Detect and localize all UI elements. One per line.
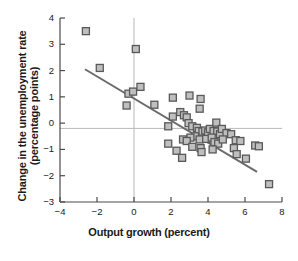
y-tick-label: 4	[36, 12, 54, 23]
y-tick-label: 3	[36, 38, 54, 49]
y-tick-label: −1	[36, 143, 54, 154]
x-tick-label: 8	[270, 206, 294, 217]
y-tick-label: −2	[36, 170, 54, 181]
y-tick-label: 0	[36, 117, 54, 128]
reference-lines-group	[60, 18, 282, 202]
data-point-marker	[186, 92, 193, 99]
y-tick-label: 1	[36, 91, 54, 102]
x-tick-label: −4	[48, 206, 72, 217]
data-point-marker	[266, 181, 273, 188]
x-tick-label: −2	[85, 206, 109, 217]
data-point-marker	[165, 140, 172, 147]
data-point-marker	[189, 143, 196, 150]
y-tick-label: 2	[36, 65, 54, 76]
x-tick-label: 4	[196, 206, 220, 217]
data-point-marker	[196, 105, 203, 112]
x-tick-label: 6	[233, 206, 257, 217]
x-tick-label: 0	[122, 206, 146, 217]
data-point-marker	[96, 64, 103, 71]
x-tick-label: 2	[159, 206, 183, 217]
data-point-marker	[219, 136, 226, 143]
data-point-marker	[179, 154, 186, 161]
data-point-marker	[255, 143, 262, 150]
axes-group	[60, 18, 282, 202]
data-point-marker	[173, 147, 180, 154]
data-point-marker	[169, 113, 176, 120]
data-point-marker	[151, 101, 158, 108]
data-point-marker	[165, 123, 172, 130]
data-point-marker	[169, 94, 176, 101]
data-point-marker	[237, 138, 244, 145]
data-point-marker	[198, 149, 205, 156]
data-point-marker	[132, 46, 139, 53]
data-point-marker	[242, 155, 249, 162]
data-point-marker	[233, 151, 240, 158]
scatter-plot-figure: Output growth (percent) Change in the un…	[0, 0, 298, 261]
x-axis-title: Output growth (percent)	[0, 226, 298, 238]
data-point-marker	[137, 83, 144, 90]
data-point-marker	[209, 146, 216, 153]
data-point-marker	[197, 95, 204, 102]
data-point-marker	[130, 88, 137, 95]
data-point-marker	[82, 28, 89, 35]
y-tick-label: −3	[36, 196, 54, 207]
data-point-marker	[123, 102, 130, 109]
